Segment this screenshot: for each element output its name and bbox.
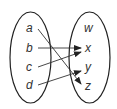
arrow-d-to-y [38,71,81,85]
domain-element-c: c [26,60,32,74]
codomain-element-x: x [84,41,92,55]
domain-element-d: d [26,78,33,92]
mapping-diagram: a b c d w x y z [0,0,117,109]
domain-element-b: b [26,41,33,55]
codomain-element-z: z [84,79,91,93]
codomain-element-y: y [84,60,92,74]
arrow-c-to-x [38,52,81,67]
arrow-a-to-z [38,29,81,84]
codomain-element-w: w [84,21,94,35]
domain-element-a: a [26,21,33,35]
